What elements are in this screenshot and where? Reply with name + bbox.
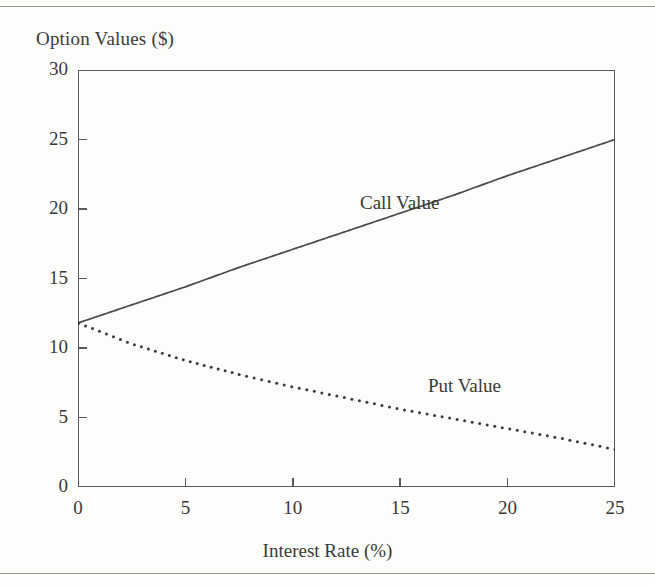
put-value-dot [313,390,316,393]
put-value-dot [395,407,398,410]
put-value-dot [224,369,227,372]
y-tick-label-25: 25 [8,128,68,150]
put-value-dot [231,371,234,374]
put-value-dot [168,354,171,357]
put-value-dot [196,362,199,365]
put-value-dot [501,426,504,429]
put-value-dot [161,352,164,355]
put-value-dot [358,399,361,402]
put-value-dot [418,411,421,414]
y-tick-20 [78,208,87,210]
series-dots-put-value [78,321,615,450]
put-value-dot [260,378,263,381]
y-tick-25 [78,139,87,141]
put-value-dot [411,410,414,413]
put-value-dot [203,364,206,367]
put-value-dot [105,333,108,336]
put-value-dot [546,434,549,437]
put-value-dot [84,324,87,327]
put-value-dot [583,442,586,445]
y-tick-5 [78,417,87,419]
put-value-dot [182,358,185,361]
put-value-dot [328,393,331,396]
put-value-dot [426,413,429,416]
put-value-dot [133,343,136,346]
put-value-dot [253,376,256,379]
put-value-dot [98,330,101,333]
put-value-dot [283,383,286,386]
x-tick-20 [507,478,509,487]
series-line-call-value [78,140,615,323]
put-value-dot [441,415,444,418]
put-value-dot [112,335,115,338]
x-tick-5 [185,478,187,487]
bottom-divider-rule [0,573,655,574]
put-value-dot [175,356,178,359]
put-value-dot [91,327,94,330]
x-tick-label-15: 15 [370,497,430,519]
annotation-put-value: Put Value [428,375,501,397]
put-value-dot [448,417,451,420]
put-value-dot [217,367,220,370]
put-value-dot [516,429,519,432]
put-value-dot [614,448,616,451]
put-value-dot [523,430,526,433]
y-tick-label-15: 15 [8,267,68,289]
put-value-dot [147,348,150,351]
put-value-dot [245,375,248,378]
x-tick-10 [292,478,294,487]
plot-svg [78,70,615,487]
put-value-dot [140,345,143,348]
y-tick-label-30: 30 [8,58,68,80]
y-tick-label-0: 0 [8,475,68,497]
x-tick-label-5: 5 [155,497,215,519]
x-tick-label-25: 25 [585,497,645,519]
y-tick-label-5: 5 [8,406,68,428]
put-value-dot [290,385,293,388]
put-value-dot [365,401,368,404]
put-value-dot [598,445,601,448]
put-value-dot [154,350,157,353]
put-value-dot [568,439,571,442]
y-tick-10 [78,347,87,349]
put-value-dot [189,360,192,363]
put-value-dot [126,341,129,344]
put-value-dot [343,396,346,399]
put-value-dot [508,428,511,431]
put-value-dot [606,446,609,449]
top-divider-rule [0,6,655,7]
y-tick-15 [78,278,87,280]
put-value-dot [373,402,376,405]
put-value-dot [478,422,481,425]
put-value-dot [456,418,459,421]
x-tick-label-0: 0 [48,497,108,519]
put-value-dot [238,373,241,376]
put-value-dot [335,395,338,398]
put-value-dot [561,437,564,440]
put-value-dot [275,382,278,385]
put-value-dot [531,432,534,435]
put-value-dot [403,408,406,411]
put-value-dot [493,425,496,428]
put-value-dot [576,440,579,443]
y-tick-label-20: 20 [8,197,68,219]
put-value-dot [433,414,436,417]
y-axis-title: Option Values ($) [36,28,174,50]
x-tick-label-10: 10 [263,497,323,519]
put-value-dot [471,421,474,424]
put-value-dot [268,380,271,383]
put-value-dot [380,404,383,407]
put-value-dot [305,388,308,391]
put-value-dot [463,419,466,422]
put-value-dot [591,443,594,446]
annotation-call-value: Call Value [360,192,439,214]
x-tick-15 [399,478,401,487]
put-value-dot [119,338,122,341]
figure-panel: Option Values ($) 051015202530 051015202… [0,0,655,586]
plot-area [78,70,615,487]
y-tick-label-10: 10 [8,336,68,358]
x-tick-label-20: 20 [478,497,538,519]
x-axis-title: Interest Rate (%) [0,540,655,562]
put-value-dot [210,366,213,369]
put-value-dot [486,423,489,426]
